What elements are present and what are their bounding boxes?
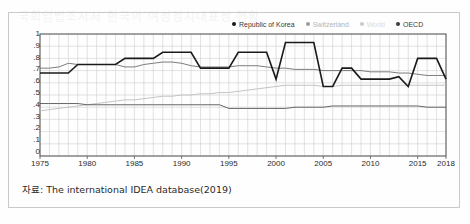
x-axis-tick-labels: 1975198019851990199520002005201020152018	[40, 160, 446, 172]
x-tick-label: 1985	[126, 160, 144, 168]
y-tick-label: .4	[33, 101, 40, 109]
y-tick-label: .2	[33, 124, 40, 132]
x-tick-label: 2015	[409, 160, 427, 168]
y-tick-label: 1	[36, 30, 40, 38]
y-tick-label: .6	[33, 77, 40, 85]
x-tick-label: 1995	[220, 160, 238, 168]
x-tick-label: 1990	[173, 160, 191, 168]
y-tick-label: 0	[36, 148, 40, 156]
x-tick-label: 2018	[437, 160, 455, 168]
x-tick-label: 1975	[31, 160, 49, 168]
x-tick-label: 2000	[267, 160, 285, 168]
y-axis-tick-labels: 1.9.8.7.6.5.4.3.2.10	[26, 30, 40, 156]
x-tick-label: 1980	[78, 160, 96, 168]
x-tick-label: 2005	[314, 160, 332, 168]
series-line-republic-of-korea	[40, 43, 446, 87]
series-line-oecd	[40, 104, 446, 109]
y-tick-label: .8	[33, 54, 40, 62]
y-tick-label: .5	[33, 89, 40, 97]
figure-root: 국회입법조사처 한국의 여성정치대표성 현황 Republic of Korea…	[0, 0, 470, 224]
y-tick-label: .3	[33, 113, 40, 121]
y-tick-label: .9	[33, 42, 40, 50]
y-tick-label: .1	[33, 136, 40, 144]
y-tick-label: .7	[33, 65, 40, 73]
source-caption: 자료: The international IDEA database(2019…	[22, 182, 232, 196]
x-tick-label: 2010	[362, 160, 380, 168]
